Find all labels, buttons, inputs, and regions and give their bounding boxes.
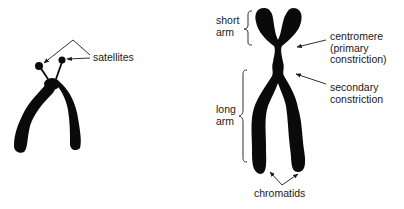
satellite-chromosome — [14, 40, 90, 153]
chromatid-right — [275, 8, 305, 172]
chromosome-right-arm — [54, 81, 81, 150]
centromere-label: centromere (primary constriction) — [330, 31, 387, 66]
long-arm-label: long arm — [216, 104, 236, 127]
centromere-pointer — [297, 40, 326, 47]
satellites-label: satellites — [93, 52, 134, 64]
centromere-blob — [44, 78, 60, 90]
chromosome-left-arm — [14, 82, 55, 153]
secondary-constriction-pointer — [296, 74, 326, 84]
secondary-constriction-label: secondary constriction — [330, 82, 383, 105]
chromatids-label: chromatids — [254, 188, 305, 200]
short-arm-label: short arm — [216, 15, 239, 38]
satellite-right — [59, 57, 66, 64]
long-arm-brace — [239, 70, 247, 162]
satellites-pointer-right — [67, 58, 90, 59]
satellite-left — [35, 62, 43, 70]
chromatid-left — [252, 8, 281, 174]
replicated-chromosome — [239, 8, 326, 185]
satellites-pointer-left — [44, 40, 90, 63]
chromatids-pointer-right — [282, 174, 298, 185]
short-arm-brace — [244, 11, 252, 45]
chromatids-pointer-left — [270, 172, 282, 185]
satellite-stalk-right — [56, 62, 62, 79]
